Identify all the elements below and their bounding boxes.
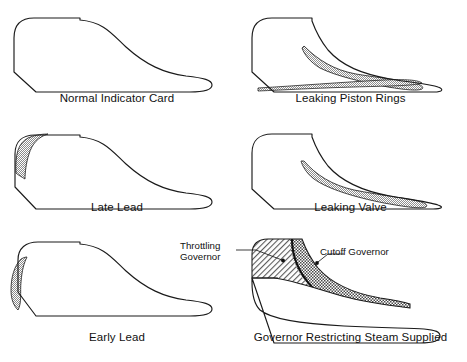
pv-curve	[14, 18, 212, 92]
throttling-leader-dot	[281, 259, 285, 263]
card-leaking-valve: Leaking Valve	[234, 117, 467, 232]
card-caption: Late Lead	[0, 201, 234, 213]
annotation-throttling-governor: Throttling Governor	[180, 240, 240, 262]
cutoff-leader-dot	[315, 261, 319, 265]
early-lead-shade	[11, 257, 27, 310]
card-caption: Early Lead	[0, 331, 234, 343]
card-normal-indicator-card: Normal Indicator Card	[0, 0, 234, 117]
leaking-valve-diagram	[234, 117, 467, 232]
indicator-card-grid: Normal Indicator Card Leaking Piston Rin…	[0, 0, 467, 362]
card-caption: Normal Indicator Card	[0, 92, 234, 104]
late-lead-diagram	[0, 117, 234, 232]
card-caption: Leaking Piston Rings	[234, 92, 467, 104]
pv-curve	[15, 135, 212, 209]
card-leaking-piston-rings: Leaking Piston Rings	[234, 0, 467, 117]
card-late-lead: Late Lead	[0, 117, 234, 232]
late-lead-shade	[16, 134, 48, 179]
annotation-cutoff-governor: Cutoff Governor	[320, 246, 389, 257]
card-caption: Governor Restricting Steam Supplied	[234, 331, 467, 343]
card-caption: Leaking Valve	[234, 201, 467, 213]
card-governor-restricting-steam-supplied: Throttling Governor Cutoff Governor Gove…	[234, 232, 467, 362]
pv-curve	[252, 134, 441, 209]
leak-shade-exhaust	[258, 80, 422, 91]
